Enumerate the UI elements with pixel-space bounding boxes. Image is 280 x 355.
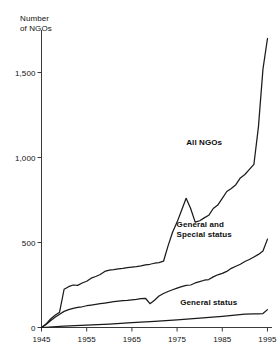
x-axis-tick-label: 1995 [258,335,276,344]
chart-plot-area [0,0,280,355]
x-axis-tick-label: 1975 [168,335,186,344]
axis-lines [42,30,273,328]
y-axis-tick-label: 0 [31,323,36,332]
series-line-general-status [42,310,268,328]
y-axis-tick-label: 500 [22,238,36,247]
y-axis-ticks [38,73,42,328]
x-axis-tick-label: 1985 [213,335,231,344]
x-axis-tick-label: 1965 [123,335,141,344]
x-axis-ticks [42,328,268,332]
series-line-all-ngos [42,39,268,328]
data-series-group [42,39,268,328]
y-axis-title: Number of NGOs [20,14,52,33]
series-annotation-all-ngos: All NGOs [186,138,222,148]
x-axis-tick-label: 1945 [32,335,50,344]
y-axis-tick-label: 1,000 [15,153,36,162]
ngo-growth-chart: Number of NGOs 05001,0001,500 1945195519… [0,0,280,355]
series-line-general-and-special-status [42,239,268,327]
series-annotation-general-status: General status [180,298,237,308]
x-axis-tick-label: 1955 [78,335,96,344]
series-annotation-general-and-special-status: General and Special status [177,220,232,240]
y-axis-tick-label: 1,500 [15,68,36,77]
